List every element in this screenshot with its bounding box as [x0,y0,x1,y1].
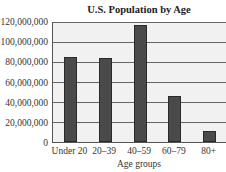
x-tick-label: 80+ [201,146,216,156]
bar [64,57,77,142]
y-tick-label: 80,000,000 [5,57,48,67]
y-tick-label: 120,000,000 [1,17,49,27]
plot-area [52,22,226,143]
bar [203,131,216,142]
x-tick-label: 20–39 [92,146,116,156]
bar [99,58,112,142]
y-tick-label: 20,000,000 [5,118,48,128]
gridline [53,22,226,23]
bar [134,25,147,142]
x-tick-label: Under 20 [52,146,88,156]
y-tick-label: 60,000,000 [5,78,48,88]
y-tick-label: 0 [43,138,48,148]
bar [168,96,181,142]
y-tick-label: 100,000,000 [1,37,49,47]
x-axis-label: Age groups [52,159,226,169]
x-tick-label: 60–79 [162,146,186,156]
x-tick-label: 40–59 [127,146,151,156]
y-tick-label: 40,000,000 [5,98,48,108]
chart-title: U.S. Population by Age [52,4,226,15]
